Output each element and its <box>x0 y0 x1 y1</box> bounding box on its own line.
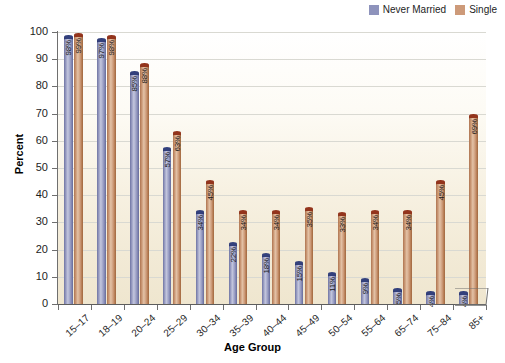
bar-cap <box>305 207 314 211</box>
x-tick-label: 40–44 <box>261 312 289 339</box>
y-tick-label: 90 <box>0 52 48 64</box>
x-tick-mark <box>354 305 355 310</box>
y-tick-mark <box>52 250 58 251</box>
bar-cap <box>196 210 205 214</box>
bar-single: 69% <box>469 116 478 304</box>
x-tick-label: 45–49 <box>293 312 321 339</box>
bar-single: 88% <box>140 65 149 304</box>
bar-single: 45% <box>436 182 445 304</box>
x-tick-mark <box>58 305 59 310</box>
bar-value-label: 45% <box>206 185 215 200</box>
y-tick-label: 20 <box>0 243 48 255</box>
x-tick-mark <box>223 305 224 310</box>
bar-value-label: 35% <box>304 212 313 227</box>
bar-value-label: 63% <box>173 136 182 151</box>
bar-cap <box>328 272 337 276</box>
x-tick-mark <box>486 305 487 310</box>
bar-never-married: 18% <box>262 255 271 304</box>
bar-value-label: 85% <box>130 76 139 91</box>
legend-label-single: Single <box>469 4 497 15</box>
x-axis-line <box>57 304 486 305</box>
y-tick-label: 70 <box>0 107 48 119</box>
bar-cap <box>436 180 445 184</box>
bar-value-label: 45% <box>436 185 445 200</box>
x-tick-mark <box>256 305 257 310</box>
bar-value-label: 11% <box>327 277 336 292</box>
bar-cap <box>393 288 402 292</box>
gridline <box>58 59 486 60</box>
bar-value-label: 99% <box>74 38 83 53</box>
y-tick-mark <box>52 32 58 33</box>
bar-value-label: 98% <box>64 40 73 55</box>
x-tick-mark <box>124 305 125 310</box>
bar-cap <box>229 242 238 246</box>
y-tick-label: 60 <box>0 134 48 146</box>
bar-cap <box>163 147 172 151</box>
bar-cap <box>140 63 149 67</box>
x-tick-label: 55–64 <box>359 312 387 339</box>
gridline <box>58 195 486 196</box>
y-tick-label: 50 <box>0 161 48 173</box>
bar-never-married: 97% <box>97 40 106 304</box>
y-tick-mark <box>52 59 58 60</box>
legend-label-never-married: Never Married <box>383 4 446 15</box>
bar-value-label: 97% <box>97 43 106 58</box>
x-tick-mark <box>190 305 191 310</box>
bar-single: 34% <box>272 212 281 304</box>
bar-cap <box>459 291 468 295</box>
y-tick-mark <box>52 195 58 196</box>
bar-single: 98% <box>107 37 116 304</box>
bar-value-label: 4% <box>459 296 468 307</box>
x-tick-mark <box>387 305 388 310</box>
chart-container: Never Married Single 98%99%97%98%85%88%5… <box>0 0 505 363</box>
bar-cap <box>361 278 370 282</box>
bar-never-married: 34% <box>196 212 205 304</box>
legend-item-never-married: Never Married <box>369 4 446 15</box>
gridline <box>58 168 486 169</box>
bar-single: 34% <box>371 212 380 304</box>
x-tick-mark <box>420 305 421 310</box>
bar-cap <box>97 38 106 42</box>
bar-cap <box>403 210 412 214</box>
x-tick-label: 20–24 <box>129 312 157 339</box>
legend-swatch-single-icon <box>455 5 465 15</box>
y-tick-mark <box>52 277 58 278</box>
bar-single: 35% <box>305 209 314 304</box>
bar-value-label: 34% <box>196 215 205 230</box>
bar-value-label: 57% <box>163 152 172 167</box>
bar-never-married: 15% <box>295 263 304 304</box>
bar-cap <box>426 291 435 295</box>
bar-cap <box>272 210 281 214</box>
bar-cap <box>262 253 271 257</box>
bar-cap <box>371 210 380 214</box>
bar-single: 99% <box>74 35 83 304</box>
bar-value-label: 34% <box>239 215 248 230</box>
chart-legend: Never Married Single <box>369 4 497 15</box>
bar-cap <box>239 210 248 214</box>
bar-never-married: 4% <box>426 293 435 304</box>
bar-single: 63% <box>173 133 182 304</box>
bar-cap <box>295 261 304 265</box>
x-tick-label: 85+ <box>466 312 486 332</box>
y-tick-mark <box>52 222 58 223</box>
bar-value-label: 98% <box>107 40 116 55</box>
bar-value-label: 18% <box>262 258 271 273</box>
bar-value-label: 33% <box>337 217 346 232</box>
x-tick-label: 30–34 <box>195 312 223 339</box>
bar-never-married: 4% <box>459 293 468 304</box>
bar-value-label: 69% <box>469 119 478 134</box>
bar-value-label: 9% <box>360 283 369 294</box>
x-tick-label: 18–19 <box>96 312 124 339</box>
bar-value-label: 4% <box>426 296 435 307</box>
bar-single: 34% <box>403 212 412 304</box>
x-axis-title: Age Group <box>0 341 505 353</box>
legend-swatch-never-married-icon <box>369 5 379 15</box>
x-tick-mark <box>453 305 454 310</box>
bar-never-married: 11% <box>328 274 337 304</box>
x-tick-mark <box>321 305 322 310</box>
gridline <box>58 114 486 115</box>
bar-never-married: 85% <box>130 73 139 304</box>
bar-cap <box>173 131 182 135</box>
bar-cap <box>338 212 347 216</box>
x-tick-mark <box>157 305 158 310</box>
